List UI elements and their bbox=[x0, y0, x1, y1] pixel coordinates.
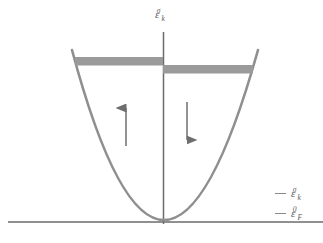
legend-item-energy-dispersion: εσk bbox=[275, 188, 302, 199]
energy-axis-label: εσk bbox=[155, 9, 166, 20]
epsilon-superscript: 0 bbox=[293, 205, 297, 214]
diagram-canvas bbox=[0, 0, 323, 243]
legend-item-fermi-level: ε0F bbox=[275, 208, 304, 219]
parabolic-dispersion-curve bbox=[72, 50, 258, 220]
epsilon-subscript: k bbox=[298, 193, 301, 202]
legend-label-fermi-level: ε0F bbox=[291, 208, 304, 219]
legend-label-energy-dispersion: εσk bbox=[291, 188, 302, 199]
legend-dash-icon bbox=[275, 213, 286, 214]
legend-dash-icon bbox=[275, 193, 286, 194]
spin-down-filled-band bbox=[163, 65, 253, 74]
epsilon-subscript: k bbox=[162, 14, 165, 23]
epsilon-superscript: σ bbox=[293, 185, 297, 194]
epsilon-superscript: σ bbox=[157, 6, 161, 15]
figure-root: εσk εσk ε0F bbox=[0, 0, 323, 243]
epsilon-subscript: F bbox=[298, 213, 303, 222]
spin-up-filled-band bbox=[75, 57, 163, 66]
